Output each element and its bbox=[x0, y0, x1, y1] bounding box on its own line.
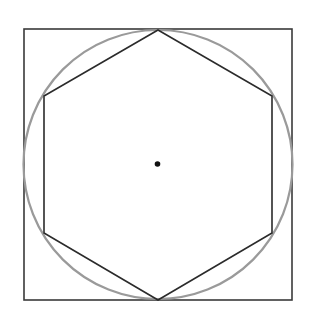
geometry-diagram bbox=[0, 0, 316, 327]
figure-canvas bbox=[0, 0, 316, 327]
center-point-dot bbox=[155, 161, 161, 167]
